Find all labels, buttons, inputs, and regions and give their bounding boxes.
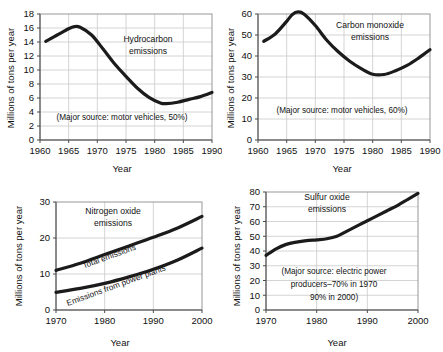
y-tick-label: 0 (45, 304, 50, 315)
nitrogen-series-label-total: Total emissions (81, 243, 137, 271)
nitrogen-title-line-1: Nitrogen oxide (85, 206, 141, 216)
chart-panel-carbon-monoxide: 0102030405060196019651970197519801985199… (222, 0, 443, 178)
nitrogen-xaxis-title: Year (110, 337, 129, 348)
y-tick-label: 18 (23, 8, 34, 19)
sulfur-yaxis-title: Millions of tons per year (231, 206, 242, 306)
y-tick-label: 8 (29, 78, 34, 89)
sulfur-xaxis-title: Year (327, 337, 346, 348)
y-tick-label: 0 (255, 304, 260, 315)
x-tick-label: 1990 (201, 145, 222, 156)
hydrocarbon-chart-svg: 0246810121416181960196519701975198019851… (0, 0, 222, 178)
y-tick-label: 12 (23, 50, 34, 61)
y-tick-label: 60 (241, 8, 252, 19)
nitrogen-series-label-power-plants: Emissions from power plants (65, 264, 166, 308)
y-tick-label: 30 (241, 71, 252, 82)
x-tick-label: 1990 (143, 315, 164, 326)
y-tick-label: 80 (249, 186, 260, 197)
nitrogen-yaxis-title: Millions of tons per year (13, 206, 24, 306)
x-tick-label: 1980 (306, 315, 327, 326)
y-tick-label: 6 (29, 92, 34, 103)
x-tick-label: 1980 (362, 145, 383, 156)
x-tick-label: 1970 (305, 145, 326, 156)
y-tick-label: 50 (241, 29, 252, 40)
y-tick-label: 10 (241, 113, 252, 124)
carbon-ticks: 0102030405060196019651970197519801985199… (241, 8, 440, 156)
hydrocarbon-title-line-2: emissions (129, 46, 167, 56)
carbon-title-line-1: Carbon monoxide (336, 20, 404, 30)
sulfur-oxide-emissions-curve (266, 193, 418, 255)
hydrocarbon-title-line-1: Hydrocarbon (123, 34, 172, 44)
hydrocarbon-ticks: 0246810121416181960196519701975198019851… (23, 8, 222, 156)
carbon-title-line-2: emissions (351, 32, 389, 42)
x-tick-label: 1975 (115, 145, 136, 156)
y-tick-label: 20 (249, 275, 260, 286)
four-chart-figure: 0246810121416181960196519701975198019851… (0, 0, 443, 352)
carbon-monoxide-chart-svg: 0102030405060196019651970197519801985199… (222, 0, 443, 178)
y-tick-label: 60 (249, 216, 260, 227)
carbon-yaxis-title: Millions of tons per year (225, 28, 236, 128)
x-tick-label: 1985 (391, 145, 412, 156)
x-tick-label: 1990 (357, 315, 378, 326)
chart-panel-sulfur-oxide: 010203040506070801970198019902000 Sulfur… (222, 178, 443, 352)
y-tick-label: 70 (249, 201, 260, 212)
x-tick-label: 1975 (333, 145, 354, 156)
sulfur-source-note-line-2: producers–70% in 1970 (291, 280, 378, 289)
y-tick-label: 10 (23, 64, 34, 75)
y-tick-label: 30 (249, 260, 260, 271)
sulfur-title-line-2: emissions (308, 204, 346, 214)
y-tick-label: 0 (247, 134, 252, 145)
x-tick-label: 1970 (87, 145, 108, 156)
sulfur-oxide-chart-svg: 010203040506070801970198019902000 Sulfur… (222, 178, 443, 352)
x-tick-label: 1970 (255, 315, 276, 326)
x-tick-label: 1990 (419, 145, 440, 156)
x-tick-label: 2000 (191, 315, 212, 326)
x-tick-label: 1965 (58, 145, 79, 156)
x-tick-label: 1985 (173, 145, 194, 156)
hydrocarbon-source-note: (Major source: motor vehicles, 50%) (56, 113, 187, 122)
hydrocarbon-xaxis-title: Year (112, 163, 131, 174)
y-tick-label: 40 (249, 245, 260, 256)
y-tick-label: 16 (23, 22, 34, 33)
y-tick-label: 50 (249, 231, 260, 242)
carbon-source-note: (Major source: motor vehicles, 60%) (276, 106, 407, 115)
chart-panel-nitrogen-oxide: 01020301970198019902000 Nitrogen oxide e… (0, 178, 222, 352)
nitrogen-oxide-chart-svg: 01020301970198019902000 Nitrogen oxide e… (0, 178, 222, 352)
y-tick-label: 30 (39, 196, 50, 207)
chart-panel-hydrocarbon: 0246810121416181960196519701975198019851… (0, 0, 222, 178)
carbon-xaxis-title: Year (332, 163, 351, 174)
y-tick-label: 14 (23, 36, 34, 47)
sulfur-source-note-line-3: 90% in 2000) (310, 293, 359, 302)
y-tick-label: 10 (249, 290, 260, 301)
y-tick-label: 20 (241, 92, 252, 103)
y-tick-label: 4 (29, 106, 34, 117)
y-tick-label: 40 (241, 50, 252, 61)
hydrocarbon-yaxis-title: Millions of tons per year (5, 28, 16, 128)
carbon-grid (258, 14, 430, 140)
y-tick-label: 10 (39, 268, 50, 279)
x-tick-label: 1960 (29, 145, 50, 156)
sulfur-title-line-1: Sulfur oxide (304, 192, 350, 202)
nitrogen-title-line-2: emissions (94, 218, 132, 228)
x-tick-label: 1970 (45, 315, 66, 326)
y-tick-label: 2 (29, 120, 34, 131)
sulfur-source-note-line-1: (Major source: electric power (281, 267, 386, 276)
x-tick-label: 1965 (276, 145, 297, 156)
x-tick-label: 1980 (144, 145, 165, 156)
x-tick-label: 2000 (407, 315, 428, 326)
x-tick-label: 1980 (94, 315, 115, 326)
x-tick-label: 1960 (247, 145, 268, 156)
y-tick-label: 0 (29, 134, 34, 145)
y-tick-label: 20 (39, 232, 50, 243)
